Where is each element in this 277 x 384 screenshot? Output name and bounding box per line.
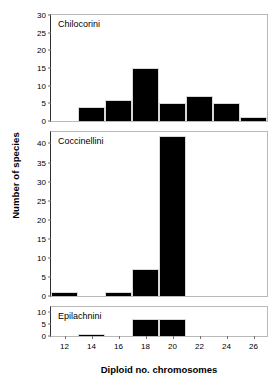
bar: [132, 269, 159, 296]
y-axis-tick-label: 20: [6, 46, 51, 55]
y-axis-tick-label: 30: [6, 177, 51, 186]
y-axis-tick-mark: [48, 311, 51, 312]
y-axis-tick-mark: [48, 200, 51, 201]
y-axis-tick-label: 0: [6, 117, 51, 126]
y-axis-tick-label: 40: [6, 139, 51, 148]
y-axis-tick-label: 10: [6, 81, 51, 90]
bar: [213, 103, 240, 121]
x-axis-tick-mark: [65, 336, 66, 339]
y-axis-tick-label: 0: [6, 332, 51, 341]
x-axis-tick-mark: [227, 336, 228, 339]
x-axis-label: Diploid no. chromosomes: [50, 364, 268, 375]
y-axis-tick-label: 35: [6, 158, 51, 167]
y-axis-tick-label: 10: [6, 307, 51, 316]
y-axis-tick-label: 5: [6, 99, 51, 108]
panel-coccinellini: Coccinellini 0510152025303540: [50, 131, 268, 297]
y-axis-tick-mark: [48, 181, 51, 182]
y-axis-tick-mark: [48, 336, 51, 337]
y-axis-tick-mark: [48, 219, 51, 220]
bar: [105, 100, 132, 121]
y-axis-tick-mark: [48, 32, 51, 33]
x-axis-tick-mark: [200, 336, 201, 339]
panel-title-coccinellini: Coccinellini: [58, 136, 104, 146]
bar: [159, 136, 186, 296]
bar: [78, 107, 105, 121]
y-axis-tick-label: 5: [6, 319, 51, 328]
panel-chilocorini: Chilocorini 051015202530: [50, 14, 268, 122]
y-axis-tick-mark: [48, 103, 51, 104]
y-axis-tick-mark: [48, 68, 51, 69]
panel-epilachnini: Epilachnini 05101214161820222426: [50, 306, 268, 337]
x-axis-tick-mark: [254, 336, 255, 339]
y-axis-tick-label: 15: [6, 64, 51, 73]
y-axis-tick-label: 10: [6, 253, 51, 262]
bar: [159, 319, 186, 336]
y-axis-tick-label: 20: [6, 215, 51, 224]
bar: [105, 292, 132, 296]
bar: [159, 103, 186, 121]
bar: [51, 292, 78, 296]
y-axis-tick-mark: [48, 143, 51, 144]
x-axis-tick-mark: [92, 336, 93, 339]
y-axis-tick-mark: [48, 257, 51, 258]
y-axis-tick-label: 25: [6, 196, 51, 205]
plot-area-coccinellini: [51, 132, 267, 296]
y-axis-tick-mark: [48, 296, 51, 297]
y-axis-tick-label: 5: [6, 272, 51, 281]
y-axis-tick-label: 15: [6, 234, 51, 243]
chart-figure: Number of species Chilocorini 0510152025…: [0, 0, 277, 384]
x-axis-tick-mark: [146, 336, 147, 339]
panel-title-chilocorini: Chilocorini: [58, 19, 100, 29]
bar: [132, 68, 159, 121]
y-axis-tick-label: 25: [6, 28, 51, 37]
bar: [132, 319, 159, 336]
y-axis-tick-mark: [48, 85, 51, 86]
y-axis-tick-label: 30: [6, 11, 51, 20]
y-axis-tick-mark: [48, 238, 51, 239]
y-axis-tick-mark: [48, 162, 51, 163]
y-axis-tick-mark: [48, 15, 51, 16]
x-axis-tick-mark: [119, 336, 120, 339]
y-axis-tick-mark: [48, 121, 51, 122]
plot-area-chilocorini: [51, 15, 267, 121]
bar: [186, 96, 213, 121]
x-axis-tick-mark: [173, 336, 174, 339]
panel-title-epilachnini: Epilachnini: [58, 311, 102, 321]
y-axis-tick-mark: [48, 323, 51, 324]
bar: [240, 117, 267, 121]
y-axis-tick-mark: [48, 50, 51, 51]
y-axis-tick-label: 0: [6, 292, 51, 301]
y-axis-tick-mark: [48, 276, 51, 277]
